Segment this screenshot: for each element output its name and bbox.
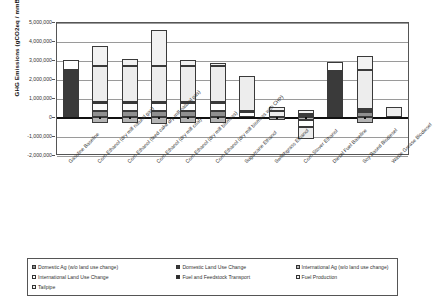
legend-item-domestic-luc: Domestic Land Use Change — [176, 264, 295, 270]
x-tick-mark — [217, 117, 219, 119]
bar-segment — [210, 102, 226, 104]
bar-segment — [210, 63, 226, 66]
legend-label: International Ag (w/o land use change) — [302, 264, 389, 270]
x-axis-labels: Gasoline BaselineCorn Ethanol (dry mill … — [0, 158, 425, 253]
y-tick-mark — [52, 79, 55, 80]
bar-group[interactable] — [56, 22, 85, 155]
y-tick-label: 3,000,000 — [0, 57, 52, 63]
legend-item-international-ag: International Ag (w/o land use change) — [296, 264, 393, 270]
x-tick-mark — [393, 117, 395, 119]
gridline — [57, 156, 408, 157]
legend-label: Fuel Production — [302, 274, 338, 280]
bar-segment — [210, 103, 226, 111]
bar-segment — [298, 114, 314, 116]
x-tick-mark — [334, 117, 336, 119]
bar-segment — [210, 66, 226, 102]
legend-label: International Land Use Change — [38, 274, 109, 280]
legend-row: International Land Use Change Fuel and F… — [32, 272, 393, 282]
bar-segment — [357, 109, 373, 111]
y-tick-mark — [52, 155, 55, 156]
bar-segment — [180, 60, 196, 66]
legend-swatch-icon — [32, 285, 36, 289]
bar-segment — [92, 103, 108, 111]
legend-label: Fuel and Feedstock Transport — [182, 274, 250, 280]
x-tick-mark — [364, 117, 366, 119]
legend-swatch-icon — [176, 275, 180, 279]
bar-segment — [327, 62, 343, 71]
x-tick-mark — [276, 117, 278, 119]
bar-segment — [298, 120, 314, 127]
y-tick-label: 5,000,000 — [0, 19, 52, 25]
legend-item-transport: Fuel and Feedstock Transport — [176, 274, 295, 280]
x-tick-mark — [158, 117, 160, 119]
bar-segment — [122, 59, 138, 66]
legend-item-international-luc: International Land Use Change — [32, 274, 176, 280]
y-axis-title: GHG Emissions (gCO2eq / mmBtu) — [13, 0, 20, 104]
bar-segment — [63, 70, 79, 117]
y-tick-mark — [52, 41, 55, 42]
bar-segment — [122, 66, 138, 102]
bar-segment — [151, 66, 167, 102]
legend-swatch-icon — [176, 265, 180, 269]
chart-legend: Domestic Ag (w/o land use change) Domest… — [27, 258, 398, 296]
bar-stack[interactable] — [63, 22, 79, 155]
legend-row: Tailpipe — [32, 282, 393, 292]
y-tick-mark — [52, 117, 55, 118]
bar-segment — [122, 103, 138, 111]
y-tick-label: 1,000,000 — [0, 95, 52, 101]
y-tick-mark — [52, 22, 55, 23]
y-tick-mark — [52, 98, 55, 99]
bar-segment — [151, 30, 167, 66]
bar-segment — [386, 107, 402, 117]
bar-segment — [122, 102, 138, 104]
legend-item-domestic-ag: Domestic Ag (w/o land use change) — [32, 264, 176, 270]
bar-segment — [151, 102, 167, 104]
legend-row: Domestic Ag (w/o land use change) Domest… — [32, 262, 393, 272]
bar-segment — [92, 66, 108, 102]
y-tick-label: 4,000,000 — [0, 38, 52, 44]
bar-segment — [239, 76, 255, 111]
bar-segment — [92, 102, 108, 104]
bar-segment — [63, 60, 79, 70]
legend-swatch-icon — [296, 275, 300, 279]
y-tick-label: -1,000,000 — [0, 133, 52, 139]
legend-item-tailpipe: Tailpipe — [32, 284, 176, 290]
y-tick-mark — [52, 60, 55, 61]
y-tick-label: 0 — [0, 114, 52, 120]
x-tick-mark — [305, 117, 307, 119]
bar-segment — [327, 71, 343, 117]
x-tick-mark — [99, 117, 101, 119]
bar-segment — [298, 110, 314, 114]
y-tick-label: 2,000,000 — [0, 76, 52, 82]
legend-swatch-icon — [296, 265, 300, 269]
y-tick-mark — [52, 136, 55, 137]
x-tick-mark — [129, 117, 131, 119]
bar-segment — [357, 70, 373, 109]
bar-segment — [239, 111, 255, 113]
legend-swatch-icon — [32, 275, 36, 279]
bar-segment — [92, 46, 108, 66]
legend-label: Domestic Land Use Change — [182, 264, 246, 270]
x-tick-mark — [246, 117, 248, 119]
bar-segment — [357, 56, 373, 69]
legend-label: Tailpipe — [38, 284, 55, 290]
legend-swatch-icon — [32, 265, 36, 269]
x-tick-mark — [187, 117, 189, 119]
legend-item-fuel-production: Fuel Production — [296, 274, 393, 280]
x-tick-mark — [70, 117, 72, 119]
legend-label: Domestic Ag (w/o land use change) — [38, 264, 118, 270]
